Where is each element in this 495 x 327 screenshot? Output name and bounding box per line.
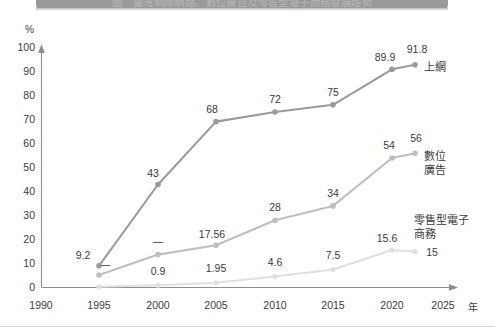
- series-internet: [96, 62, 418, 269]
- y-tick-50: 50: [23, 161, 35, 173]
- datalabel-ecommerce-2020: 15.6: [377, 232, 398, 244]
- x-tick-2010: 2010: [263, 299, 287, 311]
- x-tick-1990: 1990: [29, 299, 53, 311]
- datalabel-digitalad-2020: 54: [383, 139, 395, 151]
- datalabel-internet-2005: 68: [206, 103, 218, 115]
- y-tick-100: 100: [17, 41, 35, 53]
- y-tick-60: 60: [23, 137, 35, 149]
- x-tick-1995: 1995: [87, 299, 111, 311]
- y-axis-unit: %: [25, 24, 34, 35]
- y-tick-40: 40: [23, 185, 35, 197]
- series-digital-ad: [96, 150, 418, 277]
- y-tick-90: 90: [23, 65, 35, 77]
- datalabel-digitalad-2022: 56: [410, 132, 422, 144]
- x-tick-2025: 2025: [431, 299, 455, 311]
- datalabel-digitalad-2010: 28: [269, 201, 281, 213]
- datalabel-ecommerce-2010: 4.6: [268, 256, 283, 268]
- series-label-internet: 上網: [424, 60, 446, 73]
- datalabel-digitalad-2000: —: [153, 235, 164, 247]
- y-tick-80: 80: [23, 89, 35, 101]
- datalabel-ecommerce-2022: 15: [426, 246, 438, 258]
- x-tick-2020: 2020: [380, 299, 404, 311]
- chart-figure: 圖 臺灣網際網路、數位廣告及零售型電子商務發展趨勢 % 年 0 10 20 30…: [0, 0, 495, 327]
- x-axis-unit: 年: [468, 301, 478, 313]
- y-tick-30: 30: [23, 209, 35, 221]
- x-tick-2015: 2015: [321, 299, 345, 311]
- datalabel-internet-2015: 75: [327, 86, 339, 98]
- datalabel-ecommerce-2005: 1.95: [206, 262, 227, 274]
- series-label-ecommerce-line1: 零售型電子: [414, 213, 469, 226]
- x-tick-2005: 2005: [204, 299, 228, 311]
- datalabel-internet-1995: 9.2: [76, 249, 91, 261]
- datalabel-digitalad-2015: 34: [327, 187, 339, 199]
- series-label-digital-ad-line2: 廣告: [424, 163, 446, 176]
- line-chart-plot: % 年 0 10 20 30 40 50 60 70 80 90 100 199…: [0, 0, 495, 327]
- datalabel-internet-2022: 91.8: [407, 43, 428, 55]
- y-tick-10: 10: [23, 257, 35, 269]
- y-tick-70: 70: [23, 113, 35, 125]
- datalabel-ecommerce-2000: 0.9: [151, 265, 166, 277]
- x-tick-2000: 2000: [146, 299, 170, 311]
- datalabel-internet-2000: 43: [147, 167, 159, 179]
- datalabel-internet-2020: 89.9: [375, 51, 396, 63]
- series-label-digital-ad-line1: 數位: [424, 149, 446, 162]
- series-label-ecommerce-line2: 商務: [414, 227, 436, 240]
- datalabel-digitalad-2005: 17.56: [199, 228, 225, 240]
- y-axis: [38, 44, 45, 288]
- datalabel-ecommerce-2015: 7.5: [326, 249, 341, 261]
- series-ecommerce: [96, 248, 417, 290]
- y-tick-0: 0: [29, 281, 35, 293]
- datalabel-internet-2010: 72: [269, 93, 281, 105]
- y-tick-20: 20: [23, 233, 35, 245]
